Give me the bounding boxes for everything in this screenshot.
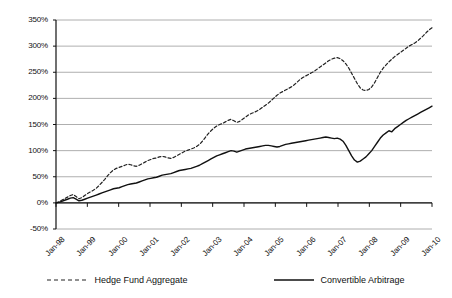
- legend-item-hedge-fund-aggregate: Hedge Fund Aggregate: [47, 275, 187, 285]
- y-axis-tick-label: 150%: [14, 120, 48, 129]
- chart-legend: Hedge Fund Aggregate Convertible Arbitra…: [0, 266, 452, 294]
- legend-label: Convertible Arbitrage: [321, 275, 405, 285]
- y-axis-tick-label: 100%: [14, 146, 48, 155]
- y-axis-tick-label: 50%: [14, 172, 48, 181]
- y-axis-tick-label: -50%: [14, 224, 48, 233]
- y-axis-tick-label: 250%: [14, 67, 48, 76]
- legend-item-convertible-arbitrage: Convertible Arbitrage: [274, 275, 405, 285]
- legend-label: Hedge Fund Aggregate: [94, 275, 187, 285]
- y-axis-tick-label: 0%: [14, 198, 48, 207]
- y-axis-tick-label: 300%: [14, 41, 48, 50]
- series-line: [56, 106, 432, 203]
- line-chart: [0, 0, 452, 298]
- y-axis-tick-label: 200%: [14, 93, 48, 102]
- chart-container: 350%300%250%200%150%100%50%0%-50% Jan-98…: [0, 0, 452, 298]
- legend-dashed-line-icon: [47, 277, 87, 283]
- legend-solid-line-icon: [274, 277, 314, 283]
- y-axis-tick-label: 350%: [14, 15, 48, 24]
